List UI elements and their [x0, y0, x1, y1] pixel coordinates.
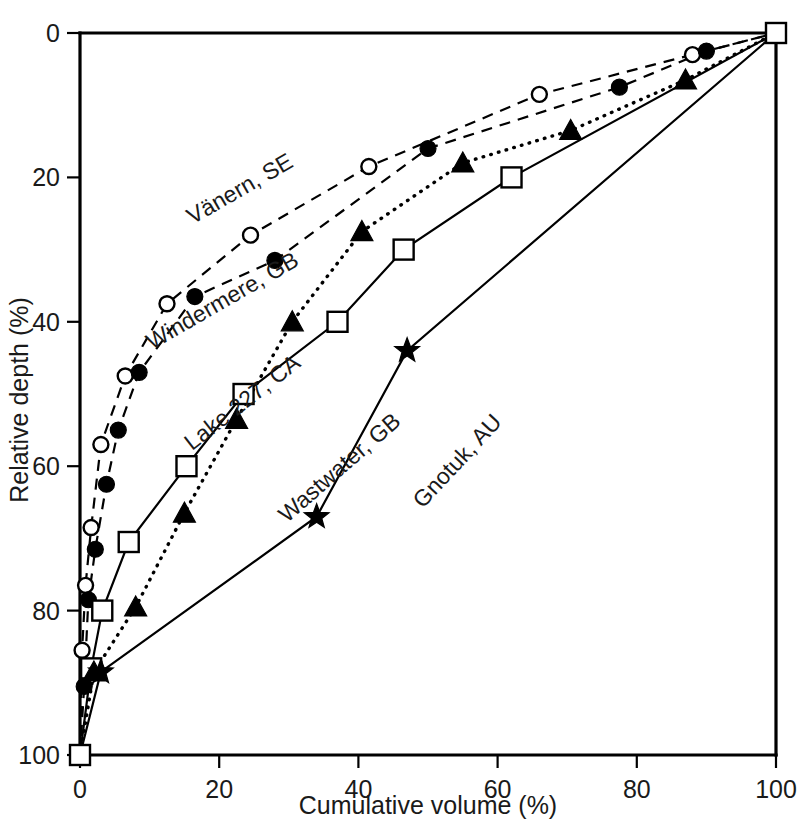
axis-tick-labels: 020406080100020406080100 [18, 19, 797, 803]
marker-open-circle [118, 368, 133, 383]
marker-filled-triangle [281, 311, 303, 331]
marker-open-square [766, 23, 786, 43]
y-tick-label: 60 [32, 452, 60, 480]
marker-open-square [119, 532, 139, 552]
series-label-3: Wastwater, GB [273, 408, 405, 528]
series-label-4: Gnotuk, AU [407, 409, 506, 513]
y-tick-label: 80 [32, 597, 60, 625]
x-tick-label: 0 [73, 775, 87, 803]
y-tick-label: 40 [32, 308, 60, 336]
marker-open-circle [243, 228, 258, 243]
marker-open-square [502, 167, 522, 187]
marker-filled-star [395, 338, 420, 362]
x-axis-title: Cumulative volume (%) [299, 791, 557, 819]
marker-open-circle [93, 437, 108, 452]
series-label-2: Lake 227, CA [179, 349, 305, 456]
y-axis-title: Relative depth (%) [5, 297, 33, 503]
marker-filled-circle [698, 43, 714, 59]
x-tick-label: 80 [623, 775, 651, 803]
marker-filled-circle [87, 541, 103, 557]
y-tick-label: 0 [46, 19, 60, 47]
marker-open-circle [685, 47, 700, 62]
marker-open-square [394, 240, 414, 260]
marker-filled-triangle [173, 502, 195, 522]
chart-figure: 020406080100020406080100 Vänern, SEWinde… [0, 0, 811, 830]
marker-filled-circle [98, 476, 114, 492]
x-tick-label: 100 [755, 775, 797, 803]
marker-open-square [176, 456, 196, 476]
marker-open-circle [532, 87, 547, 102]
marker-filled-circle [611, 79, 627, 95]
marker-open-square [92, 601, 112, 621]
marker-filled-triangle [351, 221, 373, 241]
marker-open-circle [361, 159, 376, 174]
marker-open-circle [84, 520, 99, 535]
marker-open-square [70, 745, 90, 765]
marker-open-circle [160, 296, 175, 311]
marker-filled-circle [110, 422, 126, 438]
marker-filled-triangle [560, 119, 582, 139]
series-markers [70, 23, 786, 765]
marker-open-circle [75, 643, 90, 658]
marker-filled-circle [420, 141, 436, 157]
marker-filled-triangle [125, 596, 147, 616]
marker-filled-triangle [452, 152, 474, 172]
marker-filled-circle [131, 364, 147, 380]
y-tick-label: 20 [32, 163, 60, 191]
cumulative-volume-depth-chart: 020406080100020406080100 Vänern, SEWinde… [0, 0, 811, 830]
x-tick-label: 20 [205, 775, 233, 803]
y-tick-label: 100 [18, 741, 60, 769]
marker-open-circle [78, 578, 93, 593]
marker-open-square [328, 312, 348, 332]
